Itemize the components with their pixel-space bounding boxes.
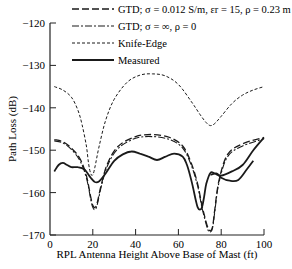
legend: GTD; σ = 0.012 S/m, εr = 15, ρ = 0.23 mG… (72, 4, 291, 66)
axes: −120−130−140−150−160−170020406080100 (22, 17, 272, 250)
x-tick-label: 100 (256, 238, 273, 250)
y-tick-label: −170 (22, 229, 45, 241)
series-line-long-dash (54, 134, 264, 230)
y-tick-label: −160 (22, 187, 45, 199)
legend-label: Knife-Edge (118, 38, 167, 49)
y-axis-label: Path Loss (dB) (6, 96, 19, 162)
y-tick-label: −140 (22, 102, 45, 114)
series-line-dash-dot (54, 137, 264, 233)
x-axis-label: RPL Antenna Height Above Base of Mast (f… (57, 248, 258, 261)
legend-label: GTD; σ = 0.012 S/m, εr = 15, ρ = 0.23 m (118, 4, 291, 15)
series-lines (54, 74, 264, 232)
legend-label: GTD; σ = ∞, ρ = 0 (118, 21, 196, 32)
series-line-solid (54, 138, 264, 210)
y-tick-label: −120 (22, 17, 45, 29)
y-tick-label: −150 (22, 144, 45, 156)
x-tick-label: 0 (47, 238, 53, 250)
y-tick-label: −130 (22, 59, 45, 71)
legend-label: Measured (118, 55, 160, 66)
path-loss-chart: −120−130−140−150−160−170020406080100 GTD… (0, 0, 292, 269)
